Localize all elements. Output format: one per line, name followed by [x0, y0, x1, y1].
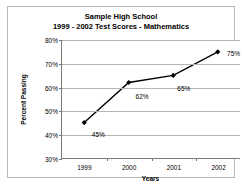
plot-area: 30%40%50%60%70%80%199920002001200245%62%… — [61, 40, 240, 159]
gridline — [62, 64, 240, 65]
y-axis-tick-label: 60% — [45, 84, 58, 91]
data-point-label: 75% — [227, 49, 240, 56]
y-axis-title-label: Percent Passing — [20, 74, 27, 125]
x-axis-tick-label: 1999 — [77, 164, 91, 171]
y-axis-tick-label: 30% — [45, 156, 58, 163]
x-axis-tick-mark — [196, 158, 197, 161]
series-line-chart — [62, 40, 240, 158]
x-axis-tick-label: 2001 — [167, 164, 181, 171]
y-axis-tick-mark — [59, 111, 62, 112]
y-axis-tick-mark — [59, 135, 62, 136]
x-axis-tick-label: 2000 — [122, 164, 136, 171]
x-axis-tick-label: 2002 — [211, 164, 225, 171]
y-axis-tick-mark — [59, 159, 62, 160]
data-point-marker — [171, 73, 176, 78]
gridline — [62, 111, 240, 112]
gridline — [62, 135, 240, 136]
y-axis-tick-label: 40% — [45, 132, 58, 139]
data-point-label: 45% — [92, 131, 105, 138]
x-axis-title: Years — [61, 175, 240, 182]
chart-title-block: Sample High School 1999 - 2002 Test Scor… — [8, 12, 234, 32]
y-axis-tick-label: 70% — [45, 60, 58, 67]
x-axis-tick-mark — [152, 158, 153, 161]
data-point-marker — [215, 49, 220, 54]
gridline — [62, 88, 240, 89]
y-axis-tick-label: 80% — [45, 37, 58, 44]
y-axis-tick-label: 50% — [45, 108, 58, 115]
y-axis-tick-mark — [59, 88, 62, 89]
data-point-label: 62% — [136, 92, 149, 99]
gridline — [62, 40, 240, 41]
y-axis-tick-mark — [59, 64, 62, 65]
chart-subtitle: 1999 - 2002 Test Scores - Mathematics — [8, 22, 234, 32]
y-axis-tick-mark — [59, 40, 62, 41]
page-title: Sample High School — [8, 12, 234, 22]
y-axis-title: Percent Passing — [18, 40, 28, 159]
x-axis-tick-mark — [107, 158, 108, 161]
data-point-label: 65% — [177, 84, 190, 91]
chart-frame: Sample High School 1999 - 2002 Test Scor… — [7, 6, 235, 178]
